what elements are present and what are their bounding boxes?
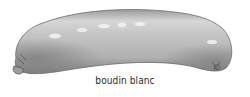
caption: boudin blanc — [0, 75, 250, 86]
sausage-shape — [15, 10, 232, 74]
